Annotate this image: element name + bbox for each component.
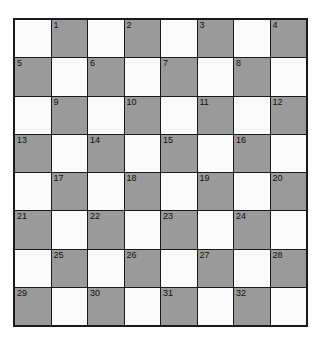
grid-cell[interactable]: 24	[234, 211, 270, 248]
grid-cell[interactable]: 13	[15, 135, 51, 172]
grid-cell[interactable]	[125, 58, 161, 95]
clue-number: 31	[163, 289, 173, 298]
clue-number: 12	[273, 98, 283, 107]
grid-cell[interactable]	[271, 58, 307, 95]
grid-cell[interactable]: 14	[88, 135, 124, 172]
grid-cell[interactable]	[161, 97, 197, 134]
grid-cell[interactable]: 10	[125, 97, 161, 134]
grid-cell[interactable]	[161, 173, 197, 210]
grid-cell[interactable]: 6	[88, 58, 124, 95]
grid-cell[interactable]	[161, 250, 197, 287]
clue-number: 19	[200, 174, 210, 183]
clue-number: 4	[273, 21, 278, 30]
grid-cell[interactable]: 7	[161, 58, 197, 95]
clue-number: 7	[163, 59, 168, 68]
grid-cell[interactable]: 18	[125, 173, 161, 210]
grid-cell[interactable]: 22	[88, 211, 124, 248]
clue-number: 20	[273, 174, 283, 183]
grid-cell[interactable]	[88, 250, 124, 287]
grid-cell[interactable]	[15, 20, 51, 57]
grid-cell[interactable]	[198, 135, 234, 172]
grid-cell[interactable]	[234, 20, 270, 57]
grid-cell[interactable]	[271, 135, 307, 172]
grid-cell[interactable]	[125, 211, 161, 248]
grid-cell[interactable]: 30	[88, 288, 124, 325]
clue-number: 22	[90, 212, 100, 221]
clue-number: 29	[17, 289, 27, 298]
grid-cell[interactable]: 25	[52, 250, 88, 287]
grid-cell[interactable]: 5	[15, 58, 51, 95]
clue-number: 15	[163, 136, 173, 145]
grid-cell[interactable]: 26	[125, 250, 161, 287]
clue-number: 28	[273, 251, 283, 260]
clue-number: 16	[236, 136, 246, 145]
grid-cell[interactable]	[52, 58, 88, 95]
grid-cell[interactable]: 2	[125, 20, 161, 57]
grid-cell[interactable]	[15, 250, 51, 287]
grid-cell[interactable]: 21	[15, 211, 51, 248]
clue-number: 14	[90, 136, 100, 145]
grid-cell[interactable]: 19	[198, 173, 234, 210]
grid-cell[interactable]	[234, 250, 270, 287]
grid-cell[interactable]	[161, 20, 197, 57]
grid-cell[interactable]	[234, 173, 270, 210]
grid-cell[interactable]: 1	[52, 20, 88, 57]
grid-cell[interactable]: 11	[198, 97, 234, 134]
grid-cell[interactable]	[52, 288, 88, 325]
grid-cell[interactable]	[88, 20, 124, 57]
clue-number: 17	[54, 174, 64, 183]
clue-number: 9	[54, 98, 59, 107]
grid-cell[interactable]	[198, 58, 234, 95]
clue-number: 21	[17, 212, 27, 221]
grid-cell[interactable]	[52, 135, 88, 172]
grid-cell[interactable]: 28	[271, 250, 307, 287]
grid-cell[interactable]: 9	[52, 97, 88, 134]
grid-cell[interactable]	[88, 173, 124, 210]
grid-cell[interactable]: 29	[15, 288, 51, 325]
grid-cell[interactable]: 23	[161, 211, 197, 248]
clue-number: 11	[200, 98, 209, 107]
grid-cell[interactable]: 4	[271, 20, 307, 57]
clue-number: 27	[200, 251, 210, 260]
grid-cell[interactable]	[125, 288, 161, 325]
clue-number: 18	[127, 174, 137, 183]
grid-cell[interactable]: 20	[271, 173, 307, 210]
grid-cell[interactable]: 17	[52, 173, 88, 210]
grid-cell[interactable]	[198, 288, 234, 325]
grid-cell[interactable]: 32	[234, 288, 270, 325]
clue-number: 23	[163, 212, 173, 221]
grid-cell[interactable]: 15	[161, 135, 197, 172]
clue-number: 24	[236, 212, 246, 221]
crossword-grid: 1234567891011121314151617181920212223242…	[13, 18, 308, 327]
grid-cell[interactable]: 27	[198, 250, 234, 287]
clue-number: 6	[90, 59, 95, 68]
clue-number: 5	[17, 59, 22, 68]
grid-cell[interactable]: 16	[234, 135, 270, 172]
clue-number: 10	[127, 98, 137, 107]
grid-cell[interactable]: 12	[271, 97, 307, 134]
clue-number: 2	[127, 21, 132, 30]
grid-cell[interactable]	[198, 211, 234, 248]
grid-cell[interactable]	[88, 97, 124, 134]
clue-number: 1	[54, 21, 59, 30]
grid-cell[interactable]: 8	[234, 58, 270, 95]
grid-cell[interactable]	[125, 135, 161, 172]
clue-number: 25	[54, 251, 64, 260]
clue-number: 26	[127, 251, 137, 260]
grid-cell[interactable]: 3	[198, 20, 234, 57]
grid-cell[interactable]	[234, 97, 270, 134]
grid-cell[interactable]	[52, 211, 88, 248]
grid-cell[interactable]	[15, 97, 51, 134]
grid-cell[interactable]	[15, 173, 51, 210]
clue-number: 32	[236, 289, 246, 298]
grid-cell[interactable]: 31	[161, 288, 197, 325]
clue-number: 13	[17, 136, 27, 145]
clue-number: 30	[90, 289, 100, 298]
clue-number: 8	[236, 59, 241, 68]
clue-number: 3	[200, 21, 205, 30]
grid-cell[interactable]	[271, 211, 307, 248]
grid-cell[interactable]	[271, 288, 307, 325]
